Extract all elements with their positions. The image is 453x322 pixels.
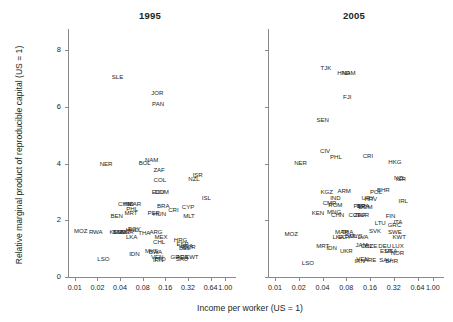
data-point-label: NAM (145, 157, 158, 163)
y-tick-label-8: 8 (43, 45, 61, 54)
x-tick-1995-0.32 (188, 278, 189, 281)
x-tick-1995-0.01 (75, 278, 76, 281)
data-point-label: BEN (110, 213, 122, 219)
data-point-label: ISL (202, 195, 211, 201)
data-point-label: CRI (363, 153, 373, 159)
data-point-label: NOR (182, 244, 195, 250)
data-point-label: IDN (129, 251, 139, 257)
data-point-label: MLT (183, 213, 195, 219)
data-point-label: RWA (89, 229, 103, 235)
data-point-label: CYP (182, 204, 194, 210)
data-point-label: NER (100, 161, 113, 167)
data-point-label: SLE (112, 74, 123, 80)
x-tick-2005-0.08 (346, 278, 347, 281)
x-tick-2005-0.01 (275, 278, 276, 281)
data-point-label: MOZ (285, 231, 298, 237)
data-point-label: IRL (398, 198, 407, 204)
data-point-label: SEN (316, 116, 328, 122)
data-point-label: CZE (365, 243, 377, 249)
data-point-label: KWT (185, 254, 198, 260)
x-tick-1995-0.04 (120, 278, 121, 281)
y-tick-1995-8 (65, 50, 68, 51)
data-point-label: COL (154, 177, 166, 183)
x-tick-label-1995-1.00: 1.00 (211, 283, 239, 292)
data-point-label: CHL (153, 239, 165, 245)
y-tick-label-6: 6 (43, 102, 61, 111)
y-tick-1995-6 (65, 107, 68, 108)
panel-title-1995: 1995 (68, 10, 232, 21)
data-point-label: KEN (312, 210, 324, 216)
data-point-label: HUN (153, 211, 166, 217)
data-point-label: TUR (357, 212, 369, 218)
y-axis-label: Relative marginal product of reproducibl… (14, 33, 24, 277)
x-axis-label: Income per worker (US = 1) (100, 303, 400, 313)
data-point-label: DOM (155, 189, 169, 195)
data-point-label: ARE (364, 257, 376, 263)
data-point-label: IDN (326, 245, 336, 251)
y-tick-label-4: 4 (43, 159, 61, 168)
x-tick-2005-0.64 (418, 278, 419, 281)
y-tick-1995-2 (65, 220, 68, 221)
y-tick-2005-2 (265, 220, 268, 221)
data-point-label: PAN (152, 101, 164, 107)
data-point-label: HKG (388, 159, 401, 165)
data-point-label: ROM (328, 202, 342, 208)
y-tick-1995-4 (65, 164, 68, 165)
data-point-label: PHL (330, 154, 342, 160)
x-tick-1995-0.16 (165, 278, 166, 281)
x-tick-2005-0.02 (299, 278, 300, 281)
data-point-label: SVK (369, 228, 381, 234)
y-axis-line-1995 (68, 29, 69, 278)
x-tick-1995-0.02 (97, 278, 98, 281)
x-tick-2005-0.32 (394, 278, 395, 281)
data-point-label: NOR (391, 250, 404, 256)
y-axis-line-2005 (268, 29, 269, 278)
data-point-label: LTU (375, 219, 386, 225)
y-tick-label-0: 0 (43, 272, 61, 281)
data-point-label: CHN (331, 212, 344, 218)
figure-scatter-plot: Relative marginal product of reproducibl… (0, 0, 453, 322)
x-tick-1995-0.64 (211, 278, 212, 281)
data-point-label: ZAF (153, 167, 164, 173)
data-point-label: MRT (125, 210, 138, 216)
data-point-label: LSO (97, 256, 109, 262)
data-point-label: BHR (385, 257, 398, 263)
data-point-label: LSO (302, 260, 314, 266)
x-tick-2005-1.00 (433, 278, 434, 281)
y-tick-2005-6 (265, 107, 268, 108)
panel-title-2005: 2005 (268, 10, 440, 21)
data-point-label: BHR (377, 187, 390, 193)
x-tick-1995-1.00 (225, 278, 226, 281)
data-point-label: NAM (342, 70, 355, 76)
data-point-label: NER (294, 160, 307, 166)
y-tick-2005-0 (265, 277, 268, 278)
y-tick-1995-0 (65, 277, 68, 278)
x-tick-1995-0.08 (143, 278, 144, 281)
data-point-label: JOR (151, 90, 163, 96)
data-point-label: LVA (358, 234, 368, 240)
y-tick-2005-4 (265, 164, 268, 165)
data-point-label: MOZ (74, 228, 87, 234)
data-point-label: UKR (340, 248, 353, 254)
y-tick-label-2: 2 (43, 215, 61, 224)
x-tick-label-2005-1.00: 1.00 (419, 283, 447, 292)
data-point-label: CRI (168, 207, 178, 213)
data-point-label: ISR (396, 176, 406, 182)
data-point-label: LKA (126, 234, 137, 240)
data-point-label: NZL (188, 176, 199, 182)
data-point-label: FJI (343, 94, 351, 100)
x-tick-2005-0.16 (370, 278, 371, 281)
x-tick-2005-0.04 (323, 278, 324, 281)
data-point-label: CIV (320, 148, 330, 154)
data-point-label: TJK (321, 65, 332, 71)
y-tick-2005-8 (265, 50, 268, 51)
data-point-label: IRN (153, 257, 163, 263)
data-point-label: KWT (393, 234, 406, 240)
